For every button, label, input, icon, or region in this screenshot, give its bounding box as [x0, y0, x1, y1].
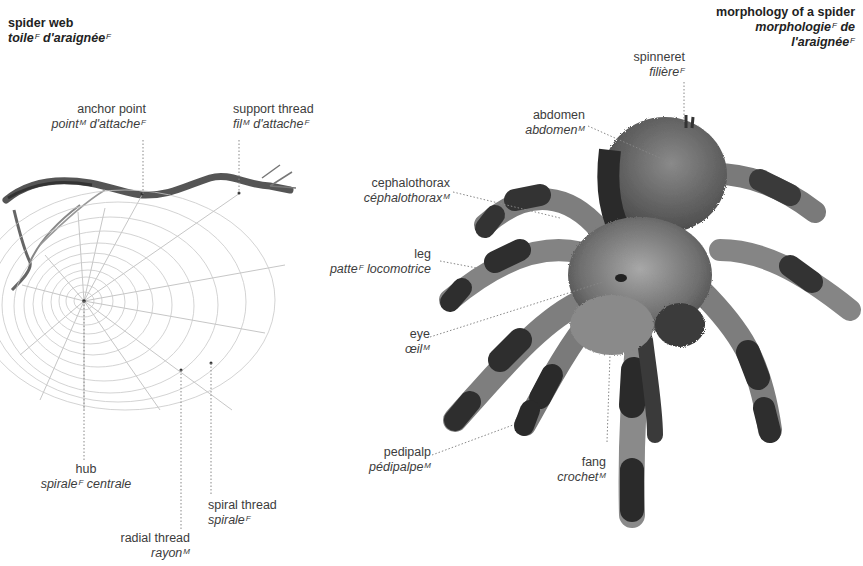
label-fang: fang crochetM [557, 455, 606, 485]
title-fr: toileF d'araignéeF [8, 31, 111, 46]
title-en: morphology of a spider [716, 5, 855, 20]
spider-web-illustration [0, 165, 296, 410]
label-abdomen: abdomen abdomenM [525, 108, 585, 138]
label-eye: eye œilM [405, 327, 430, 357]
eye [615, 274, 627, 282]
label-hub: hub spiraleF centrale [30, 462, 142, 492]
label-anchor-point: anchor point pointM d'attacheF [52, 102, 147, 132]
label-support-thread: support thread filM d'attacheF [233, 102, 314, 132]
spider-web-title: spider web toileF d'araignéeF [8, 16, 111, 46]
label-spinneret: spinneret filièreF [634, 50, 685, 80]
label-cephalothorax: cephalothorax céphalothoraxM [364, 176, 450, 206]
title-en: spider web [8, 16, 111, 31]
label-spiral-thread: spiral thread spiraleF [208, 498, 277, 528]
label-leg: leg patteF locomotrice [330, 247, 431, 277]
spider-morphology-title: morphology of a spider morphologieF de l… [716, 5, 855, 50]
label-radial-thread: radial thread rayonM [121, 531, 191, 561]
title-fr-line1: morphologieF de [716, 20, 855, 35]
title-fr-line2: l'araignéeF [716, 35, 855, 50]
label-pedipalp: pedipalp pédipalpeM [369, 445, 431, 475]
tarantula-illustration [450, 115, 850, 515]
